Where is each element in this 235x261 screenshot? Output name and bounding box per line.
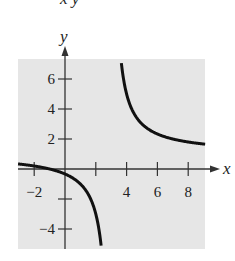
x-axis-label: x — [222, 159, 231, 178]
x-axis-arrow-icon — [210, 166, 220, 173]
cropped-equation: x y — [59, 0, 80, 8]
chart: x y −2468−4246 x y — [0, 0, 235, 261]
y-tick-label: 4 — [48, 101, 56, 117]
y-axis-arrow-icon — [62, 46, 69, 56]
x-tick-label: 4 — [123, 184, 131, 200]
y-tick-label: 6 — [48, 71, 56, 87]
x-tick-label: 6 — [154, 184, 162, 200]
x-tick-label: 8 — [184, 184, 192, 200]
y-tick-label: 2 — [48, 131, 56, 147]
y-tick-label: −4 — [39, 221, 55, 237]
y-axis-label: y — [58, 27, 68, 46]
x-tick-label: −2 — [26, 184, 42, 200]
